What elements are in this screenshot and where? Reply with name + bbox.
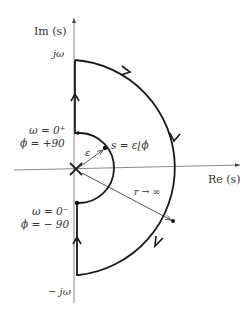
neg-j-omega-label: − jω	[48, 286, 71, 297]
real-axis	[14, 165, 240, 170]
dot-r-infinity	[171, 219, 175, 223]
real-axis-label: Re (s)	[208, 173, 241, 186]
arrow-arc-lower	[155, 236, 163, 246]
omega-zero-plus-label: ω = 0⁺	[29, 124, 65, 136]
phi-minus-90-label: ϕ = − 90	[21, 218, 69, 230]
phi-plus-90-label: ϕ = +90	[20, 137, 65, 149]
imag-axis-label: Im (s)	[34, 25, 67, 38]
j-omega-label: jω	[51, 48, 64, 59]
epsilon-label: ε	[85, 147, 90, 158]
omega-zero-minus-label: ω = 0⁻	[32, 205, 68, 217]
epsilon-radius-arrow	[78, 150, 103, 168]
r-to-infinity-label: r → ∞	[134, 186, 160, 197]
dot-omega-zero-plus	[76, 131, 80, 135]
dot-omega-zero-minus	[75, 201, 79, 205]
dot-s-epsilon	[103, 146, 107, 150]
arrow-arc-top	[121, 66, 130, 75]
nyquist-contour-diagram: Im (s) Re (s) jω − jω ω = 0⁺ ϕ = +90 ω =…	[0, 0, 250, 318]
s-equals-label: s = ε⌊ϕ	[111, 139, 149, 151]
